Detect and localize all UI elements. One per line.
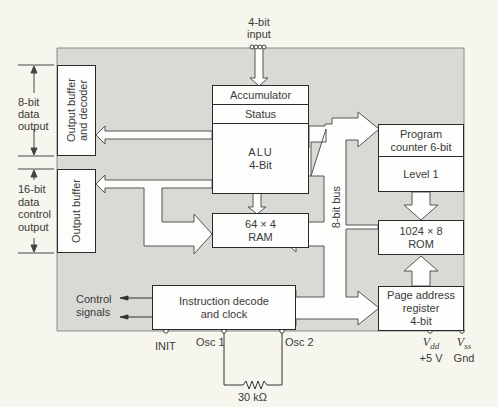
obd-line1: Output buffer (65, 78, 77, 142)
vss-subscript: ss (464, 341, 471, 351)
osc1-pin-label: Osc 1 (196, 336, 225, 348)
control-line1: Control (76, 293, 111, 306)
vdd-pin-label: Vdd +5 V (414, 336, 448, 364)
rom-size-label: 1024 × 8 (399, 225, 442, 238)
vdd-value: +5 V (414, 352, 448, 364)
level-label: Level 1 (403, 168, 438, 181)
output-buffer-label: Output buffer (70, 179, 83, 243)
accumulator-block: Accumulator (212, 85, 309, 106)
instruction-decode-block: Instruction decode and clock (152, 285, 296, 330)
program-counter-block: Program counter 6-bit (378, 124, 464, 158)
program-counter-label: Program (400, 128, 442, 141)
status-block: Status (212, 104, 309, 125)
bus-label: 8-bit bus (330, 186, 342, 228)
resistor-label: 30 kΩ (238, 391, 267, 403)
ctrl16-line4: output (18, 221, 51, 234)
vss-pin-label: Vss Gnd (450, 336, 478, 364)
ctrl16-line1: 16-bit (18, 183, 51, 196)
data-output-8bit-label: 8-bit data output (18, 96, 49, 132)
output-buffer-decoder-text: Output buffer and decoder (65, 78, 89, 142)
page-address-label: Page address (387, 289, 455, 302)
init-pin-label: INIT (155, 340, 176, 352)
data8-line2: data (18, 108, 49, 120)
ram-size-label: 64 × 4 (245, 218, 276, 231)
ctrl16-line3: control (18, 208, 51, 221)
vdd-subscript: dd (430, 341, 439, 351)
accumulator-label: Accumulator (230, 89, 291, 102)
ram-label: RAM (248, 231, 272, 244)
control-signals-label: Control signals (76, 293, 111, 319)
data-control-output-16bit-label: 16-bit data control output (18, 183, 51, 233)
level-block: Level 1 (378, 156, 464, 192)
control-line2: signals (76, 306, 111, 319)
ctrl16-line2: data (18, 196, 51, 209)
input-label-line1: 4-bit (236, 16, 282, 28)
clock-label: and clock (201, 308, 247, 321)
osc2-pin-label: Osc 2 (285, 336, 314, 348)
data8-line1: 8-bit (18, 96, 49, 108)
obd-line2: and decoder (77, 78, 89, 142)
ram-block: 64 × 4 RAM (212, 213, 309, 248)
page-address-width-label: 4-bit (410, 315, 431, 328)
alu-label: ALU (248, 146, 272, 159)
vss-value: Gnd (450, 352, 478, 364)
input-label: 4-bit input (236, 16, 282, 40)
register-label: register (403, 302, 440, 315)
input-pins (250, 45, 266, 49)
input-label-line2: input (236, 28, 282, 40)
alu-block: ALU 4-Bit (212, 123, 309, 194)
output-buffer-block: Output buffer (57, 169, 96, 253)
instruction-decode-label: Instruction decode (179, 295, 269, 308)
output-buffer-decoder-block: Output buffer and decoder (57, 65, 96, 156)
data8-line3: output (18, 120, 49, 132)
page-address-register-block: Page address register 4-bit (378, 286, 464, 331)
program-counter-width-label: counter 6-bit (390, 141, 451, 154)
alu-width-label: 4-Bit (249, 159, 272, 172)
status-label: Status (245, 108, 276, 121)
rom-block: 1024 × 8 ROM (378, 220, 464, 255)
rom-label: ROM (408, 238, 434, 251)
